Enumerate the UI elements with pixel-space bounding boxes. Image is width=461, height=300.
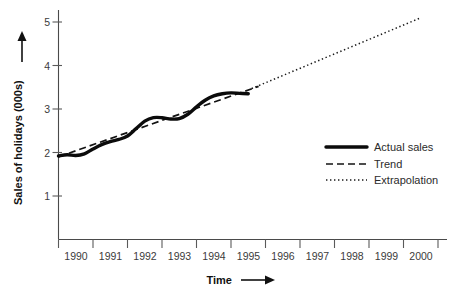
x-tick-label-1999: 1999 — [375, 250, 399, 262]
x-axis-title: Time — [207, 274, 232, 286]
chart-figure: 1 2 3 4 5 1990 1991 1992 1993 — [0, 0, 461, 300]
x-axis-tick-labels: 1990 1991 1992 1993 1994 1995 1996 1997 … — [64, 250, 433, 262]
y-tick-label-1: 1 — [44, 190, 50, 202]
y-tick-label-2: 2 — [44, 147, 50, 159]
y-axis-ticks — [53, 22, 63, 196]
legend-label-trend: Trend — [374, 158, 402, 170]
x-axis-ticks — [59, 240, 439, 249]
y-axis-tick-labels: 1 2 3 4 5 — [44, 16, 50, 202]
x-tick-label-1992: 1992 — [133, 250, 157, 262]
y-axis-title: Sales of holidays (000s) — [12, 80, 24, 205]
y-axis-arrow-icon — [18, 31, 27, 62]
series-extrapolation-line — [252, 19, 419, 89]
y-tick-label-3: 3 — [44, 103, 50, 115]
chart-legend: Actual sales Trend Extrapolation — [326, 141, 438, 186]
x-tick-label-1991: 1991 — [99, 250, 123, 262]
series-actual-sales-curve — [59, 93, 249, 156]
y-tick-label-5: 5 — [44, 16, 50, 28]
x-tick-label-1997: 1997 — [306, 250, 330, 262]
series-trend-line — [59, 86, 259, 156]
chart-canvas: 1 2 3 4 5 1990 1991 1992 1993 — [0, 0, 461, 300]
legend-label-actual-sales: Actual sales — [374, 141, 434, 153]
x-tick-label-1996: 1996 — [271, 250, 295, 262]
x-tick-label-1990: 1990 — [64, 250, 88, 262]
legend-label-extrapolation: Extrapolation — [374, 174, 438, 186]
x-axis-arrow-icon — [241, 276, 275, 285]
x-tick-label-2000: 2000 — [409, 250, 433, 262]
x-tick-label-1993: 1993 — [168, 250, 192, 262]
x-tick-label-1994: 1994 — [202, 250, 226, 262]
x-tick-label-1998: 1998 — [340, 250, 364, 262]
x-tick-label-1995: 1995 — [237, 250, 261, 262]
y-tick-label-4: 4 — [44, 60, 50, 72]
